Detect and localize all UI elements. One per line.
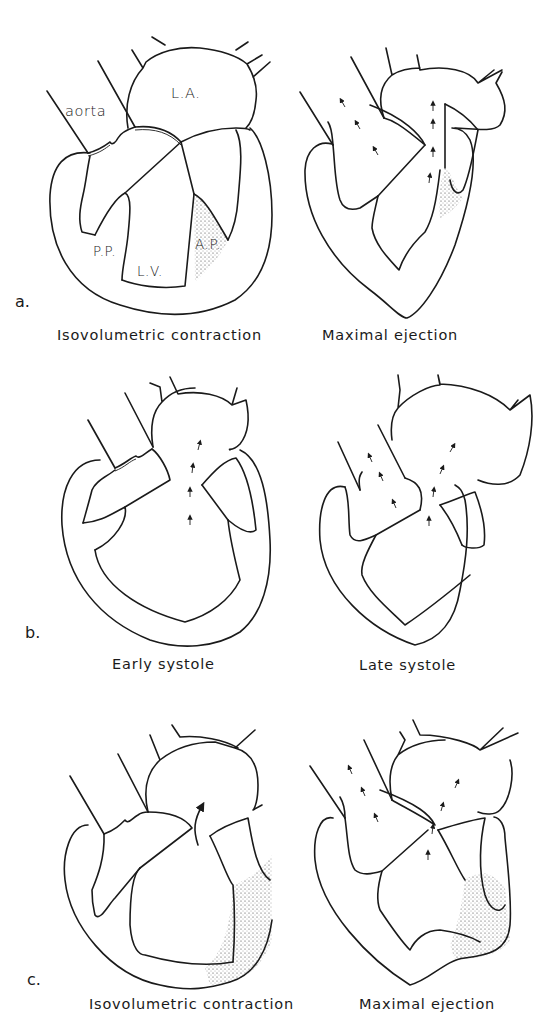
label-aorta: aorta [65,103,106,119]
panel-b-early-systole-heart [62,377,270,646]
caption-a-right: Maximal ejection [322,327,458,343]
panel-b-late-systole-heart [320,375,532,645]
caption-b-left: Early systole [112,656,215,672]
panel-c-isovolumetric-heart [64,725,272,989]
caption-c-left: Isovolumetric contraction [89,996,294,1012]
panel-letter-b: b. [25,623,40,642]
panel-letter-a: a. [15,292,30,311]
caption-a-left: Isovolumetric contraction [57,327,262,343]
caption-b-right: Late systole [359,657,456,673]
early-systole-flow-arrows [190,442,200,525]
label-posterior-papillary: P.P. [93,243,116,259]
caption-c-right: Maximal ejection [359,996,495,1012]
panel-letter-c: c. [27,970,41,989]
label-left-atrium: L.A. [171,85,200,101]
ejection-flow-arrows-c [349,767,458,860]
panel-a-ejection-heart [300,48,505,318]
heart-diagram-figure [0,0,542,1029]
late-systole-flow-arrows [369,445,454,526]
panel-c-ejection-heart [310,720,518,985]
label-left-ventricle: L.V. [137,263,163,279]
label-anterior-papillary: A.P. [195,236,221,252]
